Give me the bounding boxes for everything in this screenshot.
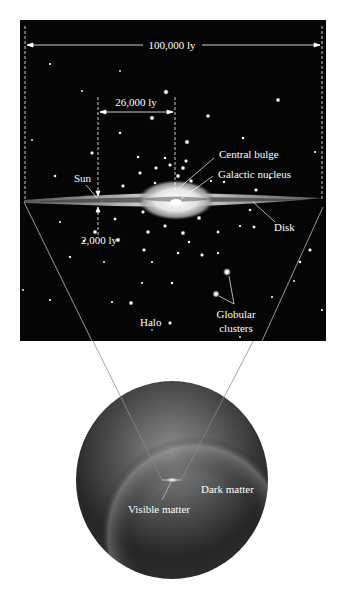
label-disk-thickness: 2,000 ly bbox=[81, 234, 118, 246]
star bbox=[252, 225, 256, 229]
star bbox=[200, 253, 204, 257]
star bbox=[53, 174, 57, 178]
star bbox=[31, 139, 34, 142]
star bbox=[103, 261, 106, 264]
star bbox=[163, 89, 169, 95]
star bbox=[254, 188, 258, 192]
star bbox=[151, 261, 154, 264]
star bbox=[138, 171, 142, 175]
star bbox=[149, 115, 154, 120]
star bbox=[176, 251, 180, 255]
star bbox=[118, 131, 122, 135]
label-central-bulge: Central bulge bbox=[219, 148, 279, 160]
label-sun: Sun bbox=[74, 172, 92, 184]
label-globular-clusters-line2: clusters bbox=[219, 322, 253, 334]
star bbox=[314, 151, 317, 154]
star bbox=[168, 163, 172, 167]
star bbox=[239, 336, 242, 339]
star bbox=[216, 230, 220, 234]
label-galaxy-diameter: 100,000 ly bbox=[148, 39, 196, 51]
star bbox=[184, 139, 189, 144]
star bbox=[184, 159, 188, 163]
star bbox=[49, 63, 52, 66]
star bbox=[222, 180, 226, 184]
star bbox=[216, 251, 219, 254]
star bbox=[209, 179, 212, 182]
star bbox=[170, 281, 174, 285]
star bbox=[298, 260, 302, 264]
star bbox=[321, 309, 324, 312]
star bbox=[59, 221, 62, 224]
star bbox=[293, 280, 296, 283]
star bbox=[163, 224, 167, 228]
star bbox=[154, 166, 158, 170]
star bbox=[151, 329, 153, 331]
star bbox=[136, 155, 140, 159]
star bbox=[206, 114, 211, 119]
star bbox=[175, 173, 180, 178]
star bbox=[68, 255, 71, 258]
star bbox=[142, 248, 146, 252]
star bbox=[223, 268, 231, 276]
star bbox=[271, 296, 274, 299]
star bbox=[111, 301, 114, 304]
label-disk: Disk bbox=[274, 221, 295, 233]
star bbox=[141, 282, 144, 285]
star bbox=[241, 136, 245, 140]
star bbox=[275, 97, 280, 102]
star bbox=[180, 165, 185, 170]
star bbox=[248, 208, 252, 212]
label-globular-clusters-line1: Globular bbox=[216, 308, 255, 320]
star bbox=[180, 230, 185, 235]
star bbox=[128, 300, 133, 305]
star bbox=[187, 240, 191, 244]
star bbox=[22, 289, 25, 292]
label-visible-matter: Visible matter bbox=[128, 503, 190, 515]
label-sun-distance: 26,000 ly bbox=[115, 96, 157, 108]
label-galactic-nucleus: Galactic nucleus bbox=[218, 168, 291, 180]
star bbox=[119, 70, 122, 73]
label-halo: Halo bbox=[140, 316, 162, 328]
star bbox=[90, 151, 94, 155]
star bbox=[49, 299, 52, 302]
star bbox=[163, 156, 167, 160]
star bbox=[146, 230, 151, 235]
central-bulge bbox=[138, 180, 214, 220]
star bbox=[238, 224, 241, 227]
star bbox=[212, 290, 219, 297]
star bbox=[113, 217, 117, 221]
star bbox=[121, 184, 125, 188]
star bbox=[81, 90, 84, 93]
star bbox=[308, 248, 312, 252]
label-dark-matter: Dark matter bbox=[201, 483, 254, 495]
star bbox=[168, 321, 172, 325]
galaxy-diagram: 100,000 ly 26,000 ly 2,000 ly Central bu… bbox=[0, 0, 343, 602]
